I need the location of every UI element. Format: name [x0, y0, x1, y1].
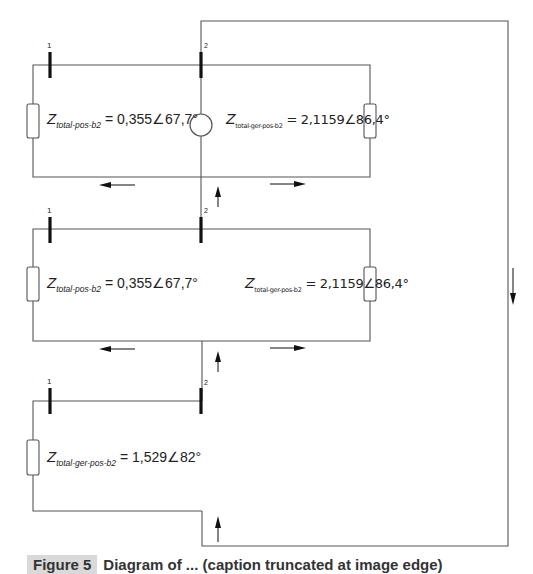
impedance-subscript: total-pos-b2: [56, 120, 101, 130]
impedance-value: = 2,1159∠86,4°: [305, 276, 408, 291]
arrow-right-icon: [270, 345, 306, 351]
impedance-symbol: Z: [245, 275, 254, 291]
figure-tag: Figure 5: [27, 555, 97, 574]
impedance-subscript: total-pos-b2: [56, 284, 101, 294]
arrow-up-icon: [215, 186, 221, 207]
impedance-label: Ztotal-ger-pos-b2 = 1,529∠82°: [47, 448, 201, 468]
impedance-subscript: total-ger-pos-b2: [254, 286, 301, 294]
bus-label-2: 2: [204, 207, 208, 214]
impedance-symbol: Z: [47, 448, 56, 465]
impedance-value: = 1,529∠82°: [120, 449, 201, 465]
bus-label-1: 1: [47, 377, 51, 386]
impedance-symbol: Z: [47, 110, 56, 127]
impedance-subscript: total-ger-pos-b2: [235, 122, 282, 130]
bus-label-2: 2: [204, 42, 208, 49]
impedance-symbol: Z: [226, 111, 235, 127]
arrow-up-icon: [215, 516, 221, 542]
bus-label-1: 1: [47, 206, 51, 215]
bus-label-1: 1: [47, 41, 51, 50]
impedance-label: Ztotal-pos-b2 = 0,355∠67,7°: [47, 110, 198, 130]
arrow-down-icon: [510, 268, 516, 305]
impedance-value: = 0,355∠67,7°: [105, 275, 198, 291]
impedance-label: Ztotal-ger-pos-b2 = 2,1159∠86,4°: [245, 275, 409, 294]
impedance-label: Ztotal-ger-pos-b2 = 2,1159∠86,4°: [226, 111, 390, 130]
resistor-icon: [27, 104, 39, 138]
impedance-subscript: total-ger-pos-b2: [56, 458, 116, 468]
resistor-icon: [27, 440, 39, 475]
bus-label-2: 2: [204, 379, 208, 386]
impedance-value: = 2,1159∠86,4°: [286, 112, 389, 127]
arrow-right-icon: [270, 181, 306, 187]
impedance-symbol: Z: [47, 274, 56, 291]
arrow-up-icon: [215, 351, 221, 372]
resistor-icon: [27, 267, 39, 301]
impedance-label: Ztotal-pos-b2 = 0,355∠67,7°: [47, 274, 198, 294]
arrow-left-icon: [99, 182, 135, 188]
arrow-left-icon: [99, 346, 135, 352]
impedance-value: = 0,355∠67,7°: [105, 111, 198, 127]
caption-text: Diagram of ... (caption truncated at ima…: [103, 556, 442, 573]
figure-caption: Figure 5Diagram of ... (caption truncate…: [27, 556, 443, 573]
